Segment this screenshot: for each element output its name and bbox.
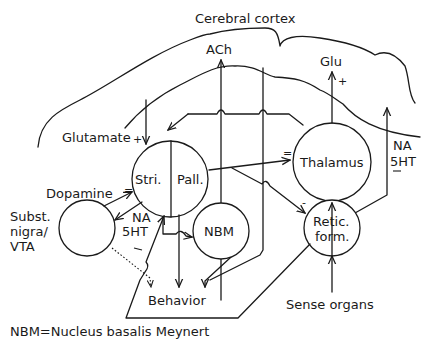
na-left-label: NA [132,210,151,225]
thalamus-label: Thalamus [299,155,364,170]
nbm-node: NBM [193,203,249,259]
striatum-label: Stri. [135,172,161,187]
subst-label-2: nigra/ [10,224,48,239]
pallidum-thalamus-sign: = [283,147,292,160]
cortex-label: Cerebral cortex [195,11,296,26]
ach-label: ACh [206,42,232,57]
striatum-pallidum-node: Stri. Pall. [132,141,208,217]
glutamate-sign: + [133,133,142,146]
subst-label-1: Subst. [10,209,51,224]
cortex-inner-contour [125,66,420,137]
glu-label: Glu [320,54,342,69]
pallidum-nbm-arrow [163,217,192,237]
dopamine-sign: = [124,184,133,197]
bus-to-striatum-arrow [168,114,188,130]
glu-sign: + [338,75,347,88]
glutamate-label: Glutamate [62,130,131,145]
subst-label-3: VTA [10,239,35,254]
nbm-label: NBM [204,224,234,239]
retic-label-1: Retic. [313,214,349,229]
thalamus-node: Thalamus [293,123,371,201]
pallidum-label: Pall. [177,172,204,187]
ht-left-label: 5HT [122,224,148,239]
ht-right-label: 5HT [390,154,416,169]
cortex-striatum-bus [188,110,303,125]
left-ht-dash [134,248,142,250]
dopamine-label: Dopamine [46,186,113,201]
retic-sign: - [302,196,306,209]
pallidum-retic-arrow [232,168,305,213]
na-right-label: NA [393,138,412,153]
legend-abbreviation: NBM=Nucleus basalis Meynert [10,324,209,339]
substantia-nigra-node [59,200,115,256]
sense-organs-label: Sense organs [286,297,374,312]
nigra-behavior-dotted [112,248,151,287]
basal-ganglia-diagram: Cerebral cortex ACh Glutamate + Stri. Pa… [0,0,432,341]
behavior-label: Behavior [148,293,206,308]
